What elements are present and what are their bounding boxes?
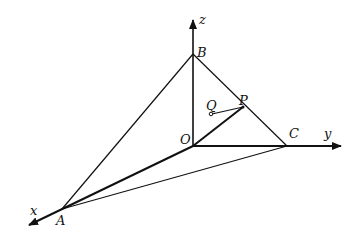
x-axis-label: x [30,203,38,218]
y-axis-label: y [323,126,332,141]
z-axis-label: z [198,12,206,27]
point-c-label: C [289,126,299,141]
point-q-label: Q [206,98,217,113]
point-o-label: O [180,132,191,147]
diagram-canvas: z y x B C A O Q P [0,0,356,247]
point-p-label: P [238,93,248,108]
segment-ab [62,54,193,209]
point-b-label: B [196,45,207,60]
x-axis [29,146,193,225]
point-a-label: A [55,213,65,228]
